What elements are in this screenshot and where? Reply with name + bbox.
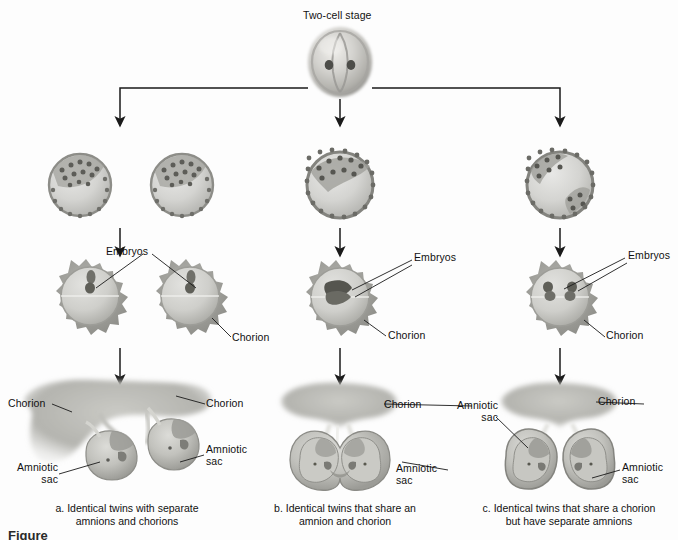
blastocyst-b (305, 148, 376, 220)
figure-number-cutoff: Figure (8, 528, 48, 540)
twin-development-figure: Two-cell stage Embryos Chorion Chorion C… (0, 0, 678, 540)
label-amniotic-sac-a-right: Amniotic sac (206, 444, 247, 467)
blastocyst-a-left (49, 154, 111, 218)
two-cell-stage-label: Two-cell stage (303, 10, 372, 22)
blastocyst-a-right (151, 154, 213, 218)
label-amniotic-sac-c-left: Amniotic sac (446, 400, 498, 423)
chorionic-vesicle-c (526, 260, 598, 336)
chorionic-vesicle-a-left (56, 259, 128, 335)
caption-b: b. Identical twins that share an amnion … (250, 502, 440, 527)
blastocyst-c (525, 148, 596, 220)
label-embryos-c: Embryos (628, 250, 670, 262)
label-chorion-c-fetal: Chorion (598, 396, 635, 408)
label-amniotic-sac-b: Amniotic sac (396, 463, 437, 486)
label-embryos-b: Embryos (414, 252, 456, 264)
caption-c: c. Identical twins that share a chorion … (464, 502, 674, 527)
chorionic-vesicle-b (306, 260, 378, 336)
figure-illustration (0, 0, 678, 540)
fetus-a-right (148, 408, 199, 470)
label-chorion-a-right: Chorion (232, 332, 269, 344)
label-chorion-b-vesicle: Chorion (388, 330, 425, 342)
label-chorion-a-sheet-right: Chorion (206, 398, 243, 410)
label-chorion-a-sheet-left: Chorion (8, 398, 45, 410)
label-amniotic-sac-c-right: Amniotic sac (622, 462, 663, 485)
caption-a: a. Identical twins with separate amnions… (32, 502, 222, 527)
label-amniotic-sac-a-left: Amniotic sac (6, 462, 58, 485)
label-chorion-c-vesicle: Chorion (606, 330, 643, 342)
arrows-row2-to-row3 (120, 228, 560, 252)
arrows-row3-to-row4 (120, 348, 560, 380)
fetal-group-b (281, 383, 396, 490)
label-embryos-a: Embryos (106, 246, 148, 258)
label-chorion-b-fetal: Chorion (384, 399, 421, 411)
two-cell-stage-embryo (308, 27, 372, 97)
